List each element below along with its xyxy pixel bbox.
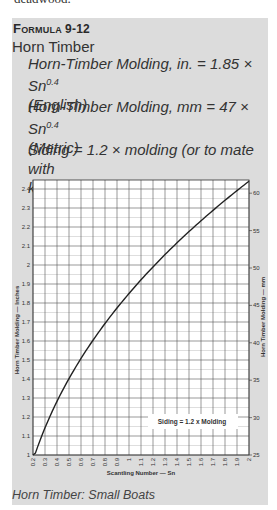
y-tick-label-right: 25	[253, 452, 260, 458]
x-tick-label: 0.4	[54, 457, 60, 466]
y-tick-label-left: 1.3	[22, 395, 31, 401]
x-tick-label: 0.3	[42, 457, 48, 466]
x-tick-label: 2	[246, 457, 252, 461]
y-tick-label-left: 2.1	[22, 243, 31, 249]
x-axis-label: Scantling Number — Sn	[107, 470, 176, 476]
y-tick-label-right: 60	[253, 190, 260, 196]
x-tick-label: 1.1	[138, 457, 144, 466]
y-tick-label-left: 1.5	[22, 357, 31, 363]
x-tick-label: 1.6	[198, 457, 204, 466]
x-tick-label: 1.2	[150, 457, 156, 466]
x-tick-label: 1.5	[186, 457, 192, 466]
y-tick-label-right: 50	[253, 265, 260, 271]
y-tick-label-left: 2.4	[22, 186, 31, 192]
y-tick-label-left: 1.9	[22, 281, 31, 287]
y-axis-label-right: Horn Timber Molding — mm	[260, 277, 266, 357]
y-tick-label-left: 1.6	[22, 338, 31, 344]
x-tick-label: 1	[126, 457, 132, 461]
y-tick-label-left: 2	[27, 262, 31, 268]
x-tick-label: 1.9	[234, 457, 240, 466]
y-tick-label-left: 1.1	[22, 433, 31, 439]
x-tick-label: 0.8	[102, 457, 108, 466]
x-tick-label: 0.6	[78, 457, 84, 466]
annotation-siding: Siding = 1.2 x Molding	[158, 418, 226, 426]
y-tick-label-left: 1.8	[22, 300, 31, 306]
y-tick-label-left: 1	[27, 452, 31, 458]
x-tick-label: 1.4	[174, 457, 180, 466]
x-tick-label: 0.2	[30, 457, 36, 466]
horn-timber-chart: 11.11.21.31.41.51.61.71.81.922.12.22.32.…	[0, 0, 277, 510]
y-tick-label-left: 2.2	[22, 224, 31, 230]
y-tick-label-left: 2.3	[22, 205, 31, 211]
y-tick-label-right: 35	[253, 377, 260, 383]
x-tick-label: 1.3	[162, 457, 168, 466]
x-tick-label: 0.5	[66, 457, 72, 466]
y-tick-label-left: 1.4	[22, 376, 31, 382]
y-tick-label-left: 1.7	[22, 319, 31, 325]
y-tick-label-left: 1.2	[22, 414, 31, 420]
y-tick-label-right: 30	[253, 415, 260, 421]
figure-caption: Horn Timber: Small Boats	[12, 488, 155, 502]
x-tick-label: 1.7	[210, 457, 216, 466]
y-tick-label-right: 55	[253, 228, 260, 234]
x-tick-label: 0.7	[90, 457, 96, 466]
x-tick-label: 1.8	[222, 457, 228, 466]
x-tick-label: 0.9	[114, 457, 120, 466]
y-axis-label-left: Horn Timber Molding — Inches	[14, 285, 20, 374]
